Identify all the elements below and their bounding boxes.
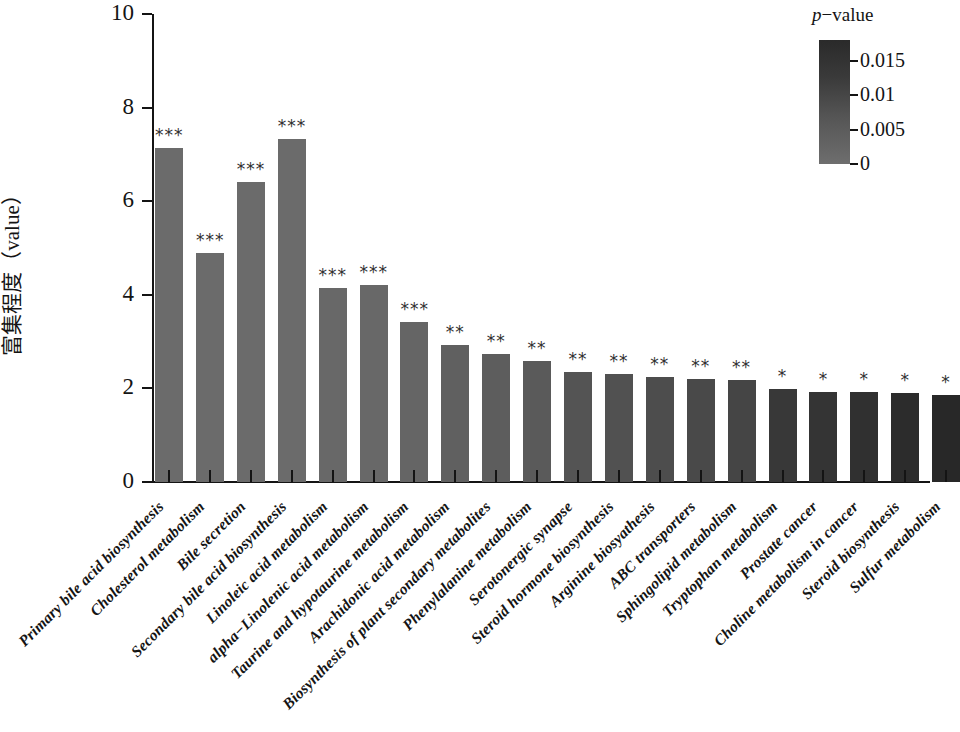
colorbar-tick-label: 0.01 [860, 84, 895, 104]
colorbar-tick [850, 60, 858, 62]
colorbar-tick [850, 94, 858, 96]
colorbar-tick [850, 129, 858, 131]
legend: p−value 0.0150.010.0050 [806, 4, 936, 179]
colorbar-tick [850, 163, 858, 165]
colorbar-gradient [819, 40, 850, 164]
x-axis-tick [945, 470, 947, 482]
legend-title-value: −value [822, 4, 874, 25]
legend-title-p: p [812, 4, 822, 25]
colorbar-tick-label: 0 [860, 153, 870, 173]
legend-title: p−value [812, 4, 873, 26]
colorbar-tick-label: 0.015 [860, 50, 905, 70]
colorbar-tick-label: 0.005 [860, 119, 905, 139]
